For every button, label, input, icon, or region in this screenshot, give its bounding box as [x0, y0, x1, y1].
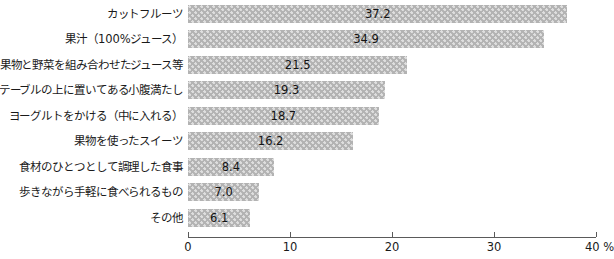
bar-value-label: 37.2: [188, 5, 567, 23]
bar-container: 34.9: [188, 30, 544, 48]
x-axis-tick-label: 40 %: [585, 240, 614, 254]
bar-value-label: 7.0: [188, 183, 259, 201]
bar: 19.3: [188, 81, 385, 99]
category-label: 果物を使ったスイーツ: [74, 132, 188, 150]
bar-value-label: 16.2: [188, 132, 353, 150]
bar-container: 16.2: [188, 132, 353, 150]
x-axis-tick-label: 10: [283, 240, 298, 254]
bar-container: 8.4: [188, 158, 274, 176]
bar-value-label: 21.5: [188, 56, 407, 74]
bar-container: 21.5: [188, 56, 407, 74]
chart-row: カットフルーツ37.2: [0, 5, 608, 23]
category-label: 果物と野菜を組み合わせたジュース等: [0, 56, 188, 74]
bar-value-label: 34.9: [188, 30, 544, 48]
bar-container: 6.1: [188, 209, 250, 227]
x-axis-tick: [290, 232, 291, 237]
category-label: 食材のひとつとして調理した食事: [19, 158, 188, 176]
chart-row: 食材のひとつとして調理した食事8.4: [0, 158, 608, 176]
x-axis-tick-label: 0: [184, 240, 191, 254]
x-axis-tick-label: 30: [487, 240, 502, 254]
bar-container: 37.2: [188, 5, 567, 23]
bar-container: 7.0: [188, 183, 259, 201]
chart-row: その他6.1: [0, 209, 608, 227]
x-axis-tick: [596, 232, 597, 237]
bar-container: 19.3: [188, 81, 385, 99]
chart-row: テーブルの上に置いてある小腹満たし19.3: [0, 81, 608, 99]
x-axis-tick-label: 20: [385, 240, 400, 254]
category-label: その他: [150, 209, 188, 227]
bar: 7.0: [188, 183, 259, 201]
x-axis-tick: [392, 232, 393, 237]
category-label: 果汁（100%ジュース）: [65, 30, 188, 48]
chart-row: 果物を使ったスイーツ16.2: [0, 132, 608, 150]
category-label: カットフルーツ: [107, 5, 188, 23]
bar-value-label: 18.7: [188, 107, 379, 125]
bar: 18.7: [188, 107, 379, 125]
bar-container: 18.7: [188, 107, 379, 125]
bar: 6.1: [188, 209, 250, 227]
bar-value-label: 8.4: [188, 158, 274, 176]
x-axis-line: [188, 237, 596, 238]
bar-value-label: 6.1: [188, 209, 250, 227]
chart-row: ヨーグルトをかける（中に入れる）18.7: [0, 107, 608, 125]
category-label: ヨーグルトをかける（中に入れる）: [9, 107, 188, 125]
bar: 34.9: [188, 30, 544, 48]
category-label: テーブルの上に置いてある小腹満たし: [0, 81, 188, 99]
x-axis-tick: [494, 232, 495, 237]
category-label: 歩きながら手軽に食べられるもの: [19, 183, 188, 201]
chart-row: 果物と野菜を組み合わせたジュース等21.5: [0, 56, 608, 74]
bar: 16.2: [188, 132, 353, 150]
bar: 21.5: [188, 56, 407, 74]
bar: 37.2: [188, 5, 567, 23]
bar: 8.4: [188, 158, 274, 176]
chart-row: 果汁（100%ジュース）34.9: [0, 30, 608, 48]
x-axis-tick: [188, 232, 189, 237]
chart-row: 歩きながら手軽に食べられるもの7.0: [0, 183, 608, 201]
bar-value-label: 19.3: [188, 81, 385, 99]
